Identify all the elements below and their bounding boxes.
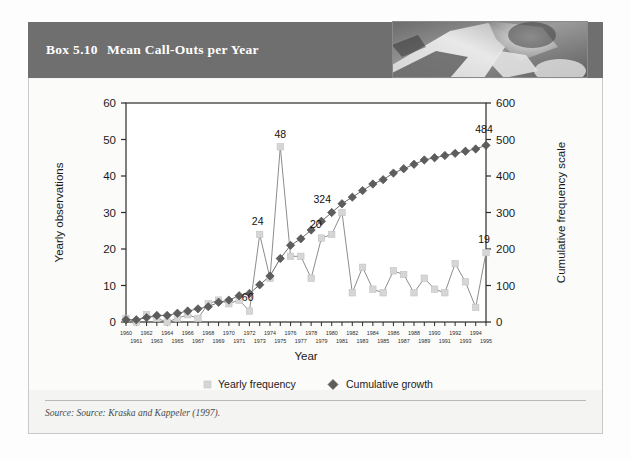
x-tick-label: 1986 — [387, 330, 399, 336]
yearly-frequency-point — [380, 290, 386, 296]
x-tick-label: 1992 — [449, 330, 461, 336]
y-axis-title: Yearly observations — [53, 162, 65, 262]
yearly-frequency-point — [473, 304, 479, 310]
yearly-frequency-point — [339, 209, 345, 215]
y-tick-label: 30 — [103, 207, 116, 219]
data-annotation: 324 — [313, 193, 331, 205]
header-photo — [392, 21, 588, 78]
x-tick-label: 1990 — [429, 330, 441, 336]
x-tick-label: 1978 — [305, 330, 317, 336]
y2-tick-label: 200 — [496, 243, 515, 255]
x-tick-label: 1975 — [274, 338, 286, 344]
x-tick-label: 1968 — [202, 330, 214, 336]
x-tick-label: 1969 — [213, 338, 225, 344]
data-annotation: 19 — [478, 233, 490, 245]
yearly-frequency-point — [452, 260, 458, 266]
x-axis-title: Year — [294, 350, 317, 362]
yearly-frequency-point — [287, 253, 293, 259]
y2-tick-label: 0 — [496, 316, 502, 328]
x-tick-label: 1965 — [171, 338, 183, 344]
x-tick-label: 1971 — [233, 338, 245, 344]
data-annotation: 20 — [310, 218, 322, 230]
y2-tick-label: 400 — [496, 170, 515, 182]
source-divider — [45, 400, 586, 401]
x-tick-label: 1988 — [408, 330, 420, 336]
page-title: Box 5.10Mean Call-Outs per Year — [46, 42, 259, 58]
yearly-frequency-point — [277, 144, 283, 150]
y2-tick-label: 100 — [496, 280, 515, 292]
data-annotation: 484 — [475, 123, 493, 135]
chart-area: 0102030405060010020030040050060019601961… — [29, 79, 602, 390]
x-tick-label: 1966 — [182, 330, 194, 336]
yearly-frequency-point — [442, 290, 448, 296]
yearly-frequency-point — [421, 275, 427, 281]
x-tick-label: 1960 — [120, 330, 132, 336]
yearly-frequency-point — [298, 253, 304, 259]
box-number: Box 5.10 — [46, 42, 98, 57]
y2-tick-label: 300 — [496, 207, 515, 219]
x-tick-label: 1974 — [264, 330, 276, 336]
x-tick-label: 1976 — [285, 330, 297, 336]
y2-tick-label: 500 — [496, 134, 515, 146]
y-tick-label: 40 — [103, 170, 116, 182]
x-tick-label: 1964 — [161, 330, 173, 336]
y-tick-label: 50 — [103, 134, 116, 146]
y-tick-label: 10 — [103, 280, 116, 292]
data-annotation: 24 — [252, 215, 264, 227]
yearly-frequency-point — [349, 290, 355, 296]
x-tick-label: 1967 — [192, 338, 204, 344]
y-tick-label: 20 — [103, 243, 116, 255]
yearly-frequency-point — [318, 235, 324, 241]
x-tick-label: 1962 — [141, 330, 153, 336]
x-tick-label: 1982 — [346, 330, 358, 336]
x-tick-label: 1973 — [254, 338, 266, 344]
yearly-frequency-point — [246, 308, 252, 314]
x-tick-label: 1963 — [151, 338, 163, 344]
yearly-frequency-point — [401, 271, 407, 277]
legend-label-yearly-frequency: Yearly frequency — [218, 378, 297, 390]
call-outs-chart: 0102030405060010020030040050060019601961… — [29, 79, 602, 390]
yearly-frequency-point — [195, 315, 201, 321]
yearly-frequency-point — [308, 275, 314, 281]
box-title-text: Mean Call-Outs per Year — [107, 42, 259, 57]
x-tick-label: 1994 — [470, 330, 482, 336]
x-tick-label: 1977 — [295, 338, 307, 344]
yearly-frequency-point — [431, 286, 437, 292]
x-tick-label: 1970 — [223, 330, 235, 336]
x-tick-label: 1987 — [398, 338, 410, 344]
x-tick-label: 1980 — [326, 330, 338, 336]
x-tick-label: 1972 — [243, 330, 255, 336]
yearly-frequency-point — [390, 268, 396, 274]
y2-axis-title: Cumulative frequency scale — [555, 142, 567, 283]
x-tick-label: 1979 — [315, 338, 327, 344]
source-note: Source: Source: Kraska and Kappeler (199… — [45, 408, 220, 418]
x-tick-label: 1985 — [377, 338, 389, 344]
y2-tick-label: 600 — [496, 97, 515, 109]
x-tick-label: 1991 — [439, 338, 451, 344]
header-photo-image — [392, 21, 588, 78]
legend-swatch-yearly-frequency — [204, 381, 211, 388]
yearly-frequency-point — [257, 231, 263, 237]
y-tick-label: 0 — [110, 316, 116, 328]
yearly-frequency-point — [411, 290, 417, 296]
x-tick-label: 1983 — [357, 338, 369, 344]
yearly-frequency-point — [329, 231, 335, 237]
x-tick-label: 1989 — [418, 338, 430, 344]
legend-swatch-cumulative-growth — [328, 380, 338, 390]
x-tick-label: 1995 — [480, 338, 492, 344]
x-tick-label: 1981 — [336, 338, 348, 344]
legend-label-cumulative-growth: Cumulative growth — [346, 378, 433, 390]
yearly-frequency-point — [462, 279, 468, 285]
x-tick-label: 1984 — [367, 330, 379, 336]
yearly-frequency-point — [370, 286, 376, 292]
data-annotation: 48 — [274, 128, 286, 140]
yearly-frequency-point — [483, 249, 489, 255]
x-tick-label: 1993 — [459, 338, 471, 344]
x-tick-label: 1961 — [130, 338, 142, 344]
yearly-frequency-point — [359, 264, 365, 270]
screenshot-root: Box 5.10Mean Call-Outs per Year — [0, 0, 631, 459]
data-annotation: 60 — [242, 291, 254, 303]
y-tick-label: 60 — [103, 97, 116, 109]
